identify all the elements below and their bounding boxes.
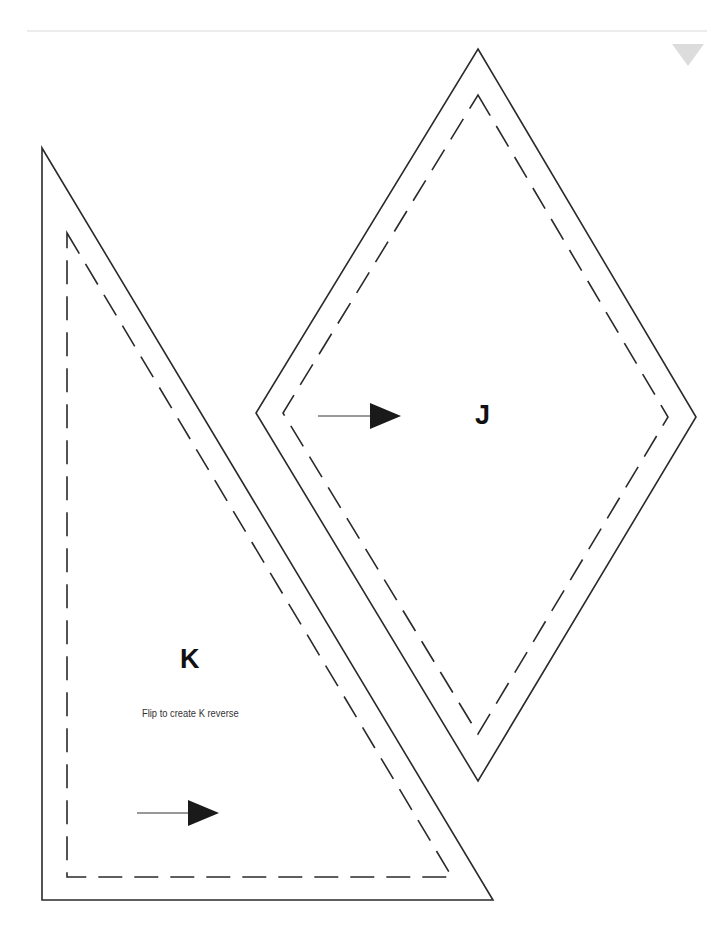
piece-j-label: J <box>475 400 490 431</box>
piece-k-label: K <box>180 644 200 675</box>
piece-k-cut-line <box>42 148 493 900</box>
piece-j-grain-arrow-icon <box>318 403 401 429</box>
piece-k-grain-arrow-icon <box>137 800 219 826</box>
piece-k-seam-line <box>67 233 452 877</box>
template-artwork <box>0 0 725 939</box>
piece-k-instruction: Flip to create K reverse <box>142 707 239 719</box>
piece-k <box>42 148 493 900</box>
